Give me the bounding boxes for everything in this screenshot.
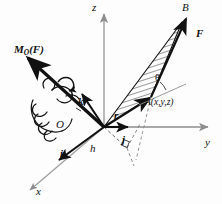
theta-arc xyxy=(160,82,166,90)
moment-of-force-figure: z y x O B F A(x,y,z) r k i j h θ MO(F) xyxy=(0,0,222,204)
label-point-b: B xyxy=(182,2,189,13)
label-moment-mo-f: MO(F) xyxy=(14,44,44,56)
diagram-canvas xyxy=(0,0,222,204)
label-moment-symbol: M xyxy=(14,43,24,55)
label-moment-arm: h xyxy=(90,143,96,154)
right-hand-grip xyxy=(31,79,79,141)
label-axis-z: z xyxy=(92,2,96,13)
tick-mark xyxy=(76,108,81,111)
unit-vector-i xyxy=(59,127,104,160)
label-force-f: F xyxy=(196,28,203,39)
label-unit-i: i xyxy=(60,148,63,159)
label-point-a: A(x,y,z) xyxy=(145,98,174,108)
label-axis-x: x xyxy=(36,186,41,197)
label-vector-r: r xyxy=(114,110,118,121)
moment-arm-h xyxy=(104,124,140,166)
label-unit-k: k xyxy=(78,96,84,107)
label-angle-theta: θ xyxy=(155,73,160,83)
label-unit-j: j xyxy=(122,134,125,145)
axis-x xyxy=(30,127,104,190)
label-moment-argument: (F) xyxy=(29,43,44,55)
label-axis-y: y xyxy=(205,137,210,148)
label-origin: O xyxy=(56,119,64,130)
